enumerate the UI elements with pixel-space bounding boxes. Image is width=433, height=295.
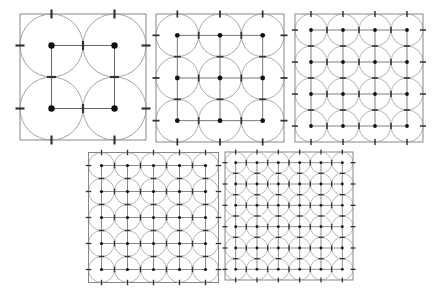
circle-center-dot [341,60,345,64]
circle-center-dot [125,267,128,270]
circle-center-dot [48,42,54,48]
circle-center-dot [277,268,280,271]
circle-center-dot [125,163,128,166]
packing-svg-n4 [288,7,430,149]
circle-center-dot [260,118,265,123]
circle-center-dot [373,28,377,32]
circle-center-dot [234,161,237,164]
circle-center-dot [203,267,206,270]
circle-center-dot [203,163,206,166]
circle-center-dot [218,118,223,123]
circle-center-dot [341,268,344,271]
circle-center-dot [177,267,180,270]
circle-center-dot [277,225,280,228]
circle-center-dot [320,183,323,186]
panel-border [20,14,146,140]
circle-center-dot [320,204,323,207]
circle-center-dot [373,124,377,128]
circle-center-dot [234,247,237,250]
circle-center-dot [177,241,180,244]
circle-center-dot [234,204,237,207]
packing-svg-n3 [148,6,292,150]
circle-center-dot [256,204,259,207]
circle-center-dot [177,189,180,192]
packing-svg-n2 [10,4,156,150]
circle-center-dot [48,105,54,111]
circle-center-dot [177,163,180,166]
circle-center-dot [309,92,313,96]
circle-center-dot [256,161,259,164]
circle-center-dot [298,183,301,186]
circle-center-dot [309,124,313,128]
circle-center-dot [405,92,409,96]
circle-center-dot [277,204,280,207]
circle-center-dot [298,268,301,271]
circle-center-dot [341,161,344,164]
circle-center-dot [260,33,265,38]
circle-center-dot [125,241,128,244]
circle-center-dot [341,247,344,250]
circle-center-dot [277,183,280,186]
circle-center-dot [298,225,301,228]
circle-center-dot [405,28,409,32]
packing-panel-n5 [88,152,225,289]
circle-center-dot [373,60,377,64]
circle-center-dot [151,241,154,244]
circle-center-dot [175,118,180,123]
circle-center-dot [277,247,280,250]
circle-center-dot [277,161,280,164]
circle-center-dot [341,92,345,96]
circle-center-dot [256,183,259,186]
circle-center-dot [373,92,377,96]
circle-center-dot [320,225,323,228]
circle-center-dot [341,124,345,128]
circle-center-dot [320,268,323,271]
circle-center-dot [234,183,237,186]
circle-center-dot [260,76,265,81]
circle-center-dot [125,215,128,218]
circle-center-dot [151,215,154,218]
packing-panel-n2 [20,14,156,150]
circle-center-dot [298,161,301,164]
circle-center-dot [298,204,301,207]
circle-center-dot [175,76,180,81]
circle-center-dot [320,247,323,250]
circle-center-dot [99,215,102,218]
circle-center-dot [218,76,223,81]
circle-center-dot [256,247,259,250]
circle-center-dot [177,215,180,218]
circle-center-dot [234,268,237,271]
packing-svg-n5 [82,146,225,289]
circle-center-dot [320,161,323,164]
circle-center-dot [341,28,345,32]
circle-center-dot [309,60,313,64]
circle-center-dot [99,189,102,192]
circle-center-dot [151,267,154,270]
circle-center-dot [405,124,409,128]
circle-center-dot [256,268,259,271]
circle-center-dot [99,267,102,270]
circle-center-dot [203,215,206,218]
circle-center-dot [125,189,128,192]
packing-panel-n6 [225,152,359,286]
packing-svg-n6 [219,146,359,286]
circle-center-dot [99,241,102,244]
packing-panel-n3 [156,14,292,150]
circle-center-dot [256,225,259,228]
circle-center-dot [203,189,206,192]
circle-center-dot [341,183,344,186]
circle-center-dot [298,247,301,250]
circle-center-dot [175,33,180,38]
circle-center-dot [151,189,154,192]
circle-center-dot [203,241,206,244]
circle-center-dot [234,225,237,228]
circle-center-dot [111,105,117,111]
circle-center-dot [111,42,117,48]
circle-center-dot [151,163,154,166]
circle-center-dot [309,28,313,32]
circle-center-dot [341,225,344,228]
packing-panel-n4 [295,14,430,149]
packing-figure [0,0,433,295]
circle-center-dot [405,60,409,64]
circle-center-dot [99,163,102,166]
